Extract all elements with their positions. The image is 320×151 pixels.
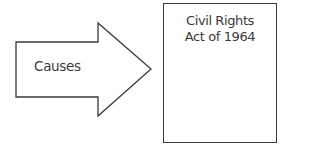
box-title: Civil Rights Act of 1964	[164, 13, 276, 45]
box-title-line-2: Act of 1964	[164, 29, 276, 45]
box-title-line-1: Civil Rights	[164, 13, 276, 29]
causes-label: Causes	[34, 58, 98, 74]
civil-rights-act-box: Civil Rights Act of 1964	[163, 3, 277, 143]
